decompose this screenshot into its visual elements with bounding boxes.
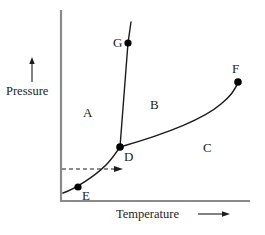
point-label-D: D [124, 150, 133, 163]
y-axis-title: Pressure [6, 85, 48, 98]
x-axis-title: Temperature [116, 208, 179, 221]
point-label-G: G [113, 36, 122, 49]
temperature-axis-arrow-icon [198, 211, 230, 216]
phase-diagram-canvas [0, 0, 265, 235]
region-label-A: A [83, 106, 92, 119]
pressure-axis-arrow-icon [29, 57, 34, 82]
point-F-marker [234, 78, 242, 86]
sublimation-curve [63, 147, 120, 193]
point-G-marker [124, 39, 131, 46]
region-label-C: C [203, 141, 212, 154]
region-label-B: B [150, 98, 159, 111]
vaporization-curve [120, 82, 238, 147]
point-label-F: F [232, 62, 239, 75]
point-E-marker [74, 183, 81, 190]
dashed-process-arrow-icon [62, 166, 123, 172]
point-D-marker [116, 143, 124, 151]
phase-diagram: G F D E A B C Pressure Temperature [0, 0, 265, 235]
point-label-E: E [82, 189, 90, 202]
